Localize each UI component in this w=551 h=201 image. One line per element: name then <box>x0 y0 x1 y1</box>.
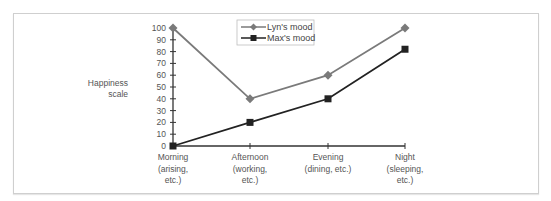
y-tick-label: 40 <box>157 94 167 104</box>
legend: Lyn's mood Max's mood <box>237 20 315 45</box>
y-tick-label: 50 <box>157 82 167 92</box>
line-chart: 0102030405060708090100 Morning(arising,e… <box>0 0 551 201</box>
x-category-label: etc.) <box>242 175 259 185</box>
x-category-label: (arising, <box>158 164 188 174</box>
y-tick-label: 20 <box>157 117 167 127</box>
series-line <box>173 49 405 146</box>
y-tick-label: 10 <box>157 129 167 139</box>
y-tick-label: 70 <box>157 58 167 68</box>
x-category-label: (sleeping, <box>387 164 424 174</box>
x-category-label: etc.) <box>165 175 182 185</box>
x-category-label: Afternoon <box>232 152 269 162</box>
square-marker-icon <box>251 35 257 41</box>
square-marker-icon <box>402 46 409 53</box>
diamond-marker-icon <box>324 71 333 80</box>
y-tick-label: 0 <box>161 141 166 151</box>
y-axis: 0102030405060708090100 <box>152 23 176 151</box>
y-tick-label: 90 <box>157 35 167 45</box>
square-marker-icon <box>170 143 177 150</box>
y-axis-label-line1: Happiness <box>88 78 128 88</box>
x-category-label: (dining, etc.) <box>305 164 352 174</box>
x-category-label: Night <box>395 152 415 162</box>
legend-lyn: Lyn's mood <box>267 22 312 32</box>
legend-max: Max's mood <box>267 33 315 43</box>
x-category-label: Morning <box>158 152 189 162</box>
x-category-label: (working, <box>233 164 267 174</box>
diamond-marker-icon <box>401 24 410 33</box>
y-tick-label: 100 <box>152 23 166 33</box>
x-axis: Morning(arising,etc.)Afternoon(working,e… <box>158 143 424 185</box>
y-tick-label: 60 <box>157 70 167 80</box>
x-category-label: etc.) <box>397 175 414 185</box>
square-marker-icon <box>247 119 254 126</box>
square-marker-icon <box>325 95 332 102</box>
y-tick-label: 80 <box>157 47 167 57</box>
x-category-label: Evening <box>313 152 344 162</box>
y-tick-label: 30 <box>157 106 167 116</box>
y-axis-label-line2: scale <box>108 89 128 99</box>
